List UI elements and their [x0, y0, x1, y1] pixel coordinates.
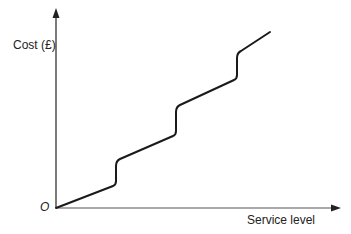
x-axis-arrow-icon: [331, 205, 341, 212]
cost-curve: [56, 32, 270, 208]
y-axis-arrow-icon: [53, 8, 60, 18]
step-cost-diagram: [0, 0, 351, 234]
x-axis-label: Service level: [247, 213, 315, 227]
origin-label: O: [40, 200, 49, 214]
y-axis-label: Cost (£): [13, 38, 56, 52]
